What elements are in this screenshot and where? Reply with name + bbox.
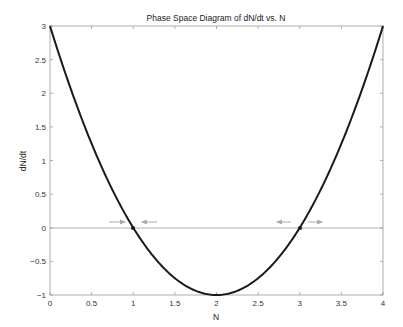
y-tick-label: 0 [42,224,47,233]
x-tick-label: 3.5 [336,299,348,308]
y-tick-label: 1.5 [35,123,47,132]
plot-area [50,26,383,295]
x-tick-label: 2 [214,299,219,308]
x-tick-label: 4 [381,299,386,308]
y-tick-label: 2 [42,89,47,98]
phase-space-chart: Phase Space Diagram of dN/dt vs. N 00.51… [0,0,403,327]
y-tick-label: 2.5 [35,56,47,65]
y-tick-label: 3 [42,22,47,31]
equilibrium-point-1 [131,226,135,230]
x-tick-label: 1 [131,299,136,308]
y-tick-label: −0.5 [30,257,46,266]
x-tick-label: 2.5 [253,299,265,308]
x-tick-label: 1.5 [169,299,181,308]
x-axis-label: N [213,312,219,322]
x-tick-label: 0.5 [86,299,98,308]
x-tick-label: 3 [298,299,303,308]
y-tick-label: 0.5 [35,190,47,199]
y-tick-label: 1 [42,157,47,166]
y-axis-label: dN/dt [18,150,28,171]
chart-title: Phase Space Diagram of dN/dt vs. N [147,13,286,23]
y-tick-label: −1 [37,291,47,300]
equilibrium-point-3 [298,226,302,230]
x-tick-label: 0 [48,299,53,308]
